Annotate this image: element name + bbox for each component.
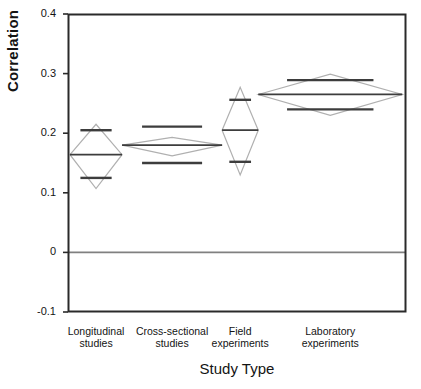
y-axis-ticks — [63, 14, 68, 312]
x-axis-title: Study Type — [68, 360, 406, 377]
diamond-outline — [122, 137, 222, 155]
x-tick-label-line1: Field — [229, 325, 252, 337]
x-tick-label-line1: Laboratory — [305, 325, 355, 337]
means-diamonds-layer — [70, 74, 402, 188]
y-tick-label: 0.3 — [16, 68, 56, 79]
means-diamond-group — [70, 124, 122, 188]
correlation-by-study-type-chart: Correlation 0.40.30.20.10-0.1 Longitudin… — [0, 0, 421, 389]
y-tick-label: 0.1 — [16, 187, 56, 198]
y-tick-label: -0.1 — [16, 306, 56, 317]
y-tick-label: 0.2 — [16, 127, 56, 138]
x-tick-label-line2: experiments — [270, 337, 390, 349]
means-diamond-group — [122, 127, 222, 163]
means-diamond-group — [222, 87, 258, 175]
y-tick-label: 0.4 — [16, 8, 56, 19]
means-diamond-group — [258, 74, 402, 115]
y-tick-label: 0 — [16, 246, 56, 257]
x-tick-label: Laboratoryexperiments — [270, 325, 390, 349]
